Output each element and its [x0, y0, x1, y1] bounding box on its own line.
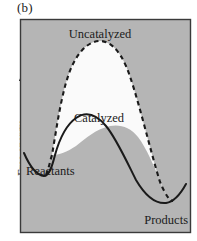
label-products: Products [144, 213, 188, 227]
label-catalyzed: Catalyzed [74, 111, 125, 125]
plot-canvas: Uncatalyzed Catalyzed Reactants Products [0, 0, 197, 241]
free-energy-diagram-figure: (b) Free energy Uncatalyzed Catalyzed Re… [0, 0, 197, 241]
label-uncatalyzed: Uncatalyzed [69, 27, 132, 41]
label-reactants: Reactants [26, 164, 75, 178]
